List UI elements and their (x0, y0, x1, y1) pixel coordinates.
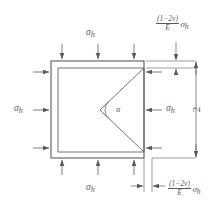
bottom-right-fraction: (1−2ν) E (168, 180, 191, 196)
bottom-right-strain-label: (1−2ν) E σh (168, 180, 201, 196)
stress-label-bottom: σh (86, 183, 95, 194)
top-right-extension-lines (146, 61, 196, 68)
bottom-right-strain-multiplier: σh (192, 185, 200, 196)
top-right-fraction: (1−2ν) E (156, 15, 179, 31)
stress-label-top: σh (86, 28, 95, 39)
outer-square (51, 61, 144, 158)
angle-arc (105, 102, 109, 119)
top-right-strain-label: (1−2ν) E σh (156, 15, 189, 31)
bottom-stress-arrows (62, 160, 134, 175)
top-right-strain-multiplier: σh (180, 20, 188, 31)
left-stress-arrows (33, 72, 49, 148)
vertical-dimension-label: 2 (191, 107, 202, 113)
stress-label-right: σh (166, 104, 175, 115)
right-stress-arrows (146, 72, 162, 148)
stress-element-diagram: σh σh σh σh α 2 (1−2ν) E σh (1−2ν) E σh (0, 0, 224, 217)
angle-label-alpha: α (116, 106, 120, 114)
top-stress-arrows (62, 44, 134, 59)
notch-triangle (100, 68, 144, 152)
stress-label-left: σh (14, 104, 23, 115)
